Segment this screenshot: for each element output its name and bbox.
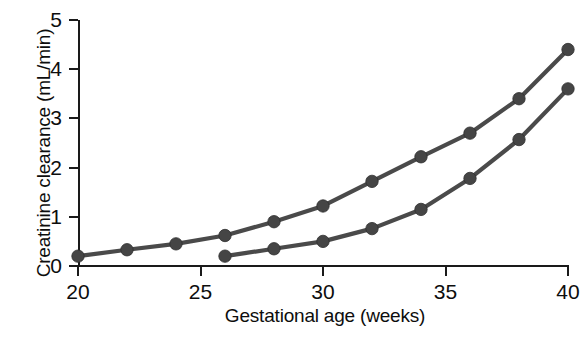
data-point [72,250,84,262]
data-point [366,222,378,234]
series-line-lower [225,89,568,256]
data-point [219,250,231,262]
data-point [170,238,182,250]
data-point [513,133,525,145]
data-point [219,229,231,241]
data-point [415,151,427,163]
data-point [562,43,574,55]
data-point [562,83,574,95]
data-point [268,216,280,228]
data-point [121,244,133,256]
data-point [415,203,427,215]
data-point [366,175,378,187]
data-point [513,93,525,105]
series-line-upper [78,50,568,257]
data-point [464,127,476,139]
data-point [464,172,476,184]
data-point [268,243,280,255]
data-point [317,235,329,247]
data-point [317,200,329,212]
